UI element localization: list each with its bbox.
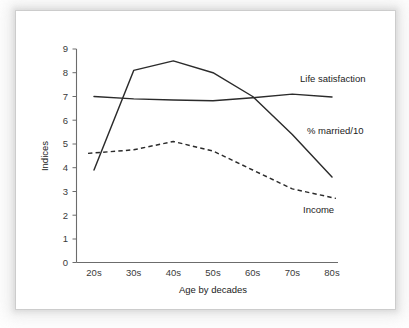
series-label-income: Income [303,204,334,215]
x-axis-title: Age by decades [179,284,247,295]
axis-group: 9 8 7 6 5 4 3 2 1 0 Indices 20s 30s 40s … [39,43,340,295]
y-tick-label-0: 0 [63,257,68,268]
y-tick-label-9: 9 [63,43,68,54]
figure-frame: 9 8 7 6 5 4 3 2 1 0 Indices 20s 30s 40s … [0,0,409,328]
y-tick-label-7: 7 [63,91,68,102]
x-tick-label-80s: 80s [324,267,340,278]
y-tick-label-6: 6 [63,115,68,126]
x-tick-label-20s: 20s [86,267,102,278]
y-tick-label-5: 5 [63,138,68,149]
series-line-income [88,142,336,199]
x-tick-label-70s: 70s [285,267,301,278]
series-line-life-satisfaction [94,94,332,101]
y-axis-title: Indices [39,141,50,171]
x-tick-label-30s: 30s [126,267,142,278]
series-label-percent-married: % married/10 [307,125,364,136]
y-tick-label-4: 4 [63,162,68,173]
y-tick-label-8: 8 [63,67,68,78]
series-line-percent-married [94,61,332,177]
y-tick-label-2: 2 [63,210,68,221]
y-tick-label-1: 1 [63,233,68,244]
x-tick-label-50s: 50s [205,267,221,278]
y-tick-label-3: 3 [63,186,68,197]
x-tick-label-40s: 40s [166,267,182,278]
x-tick-label-60s: 60s [245,267,261,278]
line-chart: 9 8 7 6 5 4 3 2 1 0 Indices 20s 30s 40s … [0,0,409,328]
series-label-life-satisfaction: Life satisfaction [300,73,365,84]
